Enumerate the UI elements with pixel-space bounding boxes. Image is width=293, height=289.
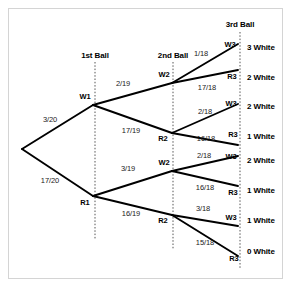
- node-label-r3-4: R3: [229, 255, 238, 263]
- branch-prob-r1-r2: 16/19: [122, 210, 140, 218]
- column-heading-2nd-ball: 2nd Ball: [158, 52, 188, 60]
- branch-w1-w2: [93, 83, 172, 105]
- branch-prob-w1-r2: 17/19: [122, 127, 140, 135]
- probability-tree-figure: 1st Ball 2nd Ball 3rd Ball W1 R1 W2 R2 W…: [0, 0, 293, 289]
- outcome-label: 3 White: [247, 44, 275, 52]
- branch-r1-w2: [93, 171, 172, 196]
- column-heading-1st-ball: 1st Ball: [81, 52, 109, 60]
- outcome-label: 2 White: [247, 74, 275, 82]
- node-label-r3-2: R3: [228, 131, 237, 139]
- branch-prob-r2a-r3: 16/18: [197, 135, 215, 143]
- node-label-r3-3: R3: [228, 189, 237, 197]
- node-label-w2-upper: W2: [158, 71, 169, 79]
- node-label-r2-upper: R2: [158, 135, 167, 143]
- node-label-w3-4: W3: [225, 214, 236, 222]
- outcome-label: 1 White: [247, 217, 275, 225]
- branch-prob-root-r1: 17/20: [41, 177, 59, 185]
- node-label-r1: R1: [80, 199, 89, 207]
- branch-root-w1: [22, 105, 93, 149]
- node-label-w3-1: W3: [224, 41, 235, 49]
- node-label-r2-lower: R2: [158, 217, 167, 225]
- branch-prob-w2b-r3: 16/18: [196, 184, 214, 192]
- column-heading-3rd-ball: 3rd Ball: [226, 21, 255, 29]
- outcome-label: 1 White: [247, 133, 275, 141]
- branch-prob-w2a-r3: 17/18: [198, 84, 216, 92]
- outcome-label: 1 White: [247, 187, 275, 195]
- branch-prob-r2a-w3: 2/18: [198, 108, 212, 116]
- node-label-w2-lower: W2: [158, 159, 169, 167]
- node-label-w1: W1: [79, 93, 90, 101]
- branch-prob-root-w1: 3/20: [43, 116, 57, 124]
- branch-prob-r1-w2: 3/19: [121, 165, 135, 173]
- node-label-r3-1: R3: [227, 73, 236, 81]
- node-label-w3-2: W3: [225, 100, 236, 108]
- branch-prob-r2b-w3: 3/18: [196, 205, 210, 213]
- outcome-label: 0 White: [247, 248, 275, 256]
- node-label-w3-3: W3: [225, 153, 236, 161]
- branch-prob-w2a-w3: 1/18: [194, 50, 208, 58]
- outcome-label: 2 White: [247, 157, 275, 165]
- outcome-label: 2 White: [247, 103, 275, 111]
- branch-prob-w1-w2: 2/19: [116, 80, 130, 88]
- branch-prob-r2b-r3: 15/18: [196, 239, 214, 247]
- branch-prob-w2b-w3: 2/18: [197, 152, 211, 160]
- branch-root-r1: [22, 149, 93, 196]
